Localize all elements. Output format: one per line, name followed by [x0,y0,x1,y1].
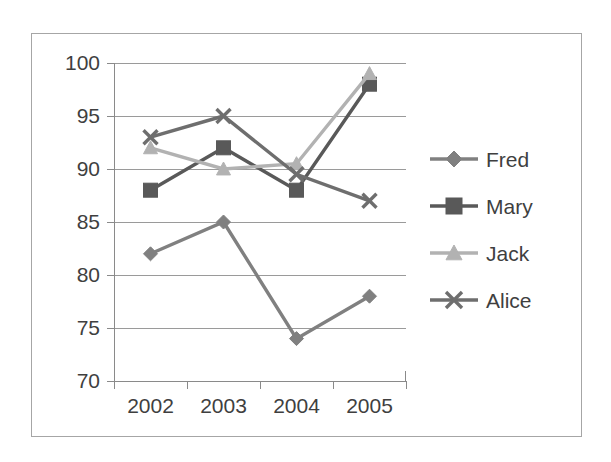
diamond-marker [144,247,158,261]
legend-label: Alice [486,289,532,312]
line-chart: 100959085807570 2002200320042005 FredMar… [32,34,581,436]
legend-item-mary[interactable]: Mary [430,195,533,218]
series-jack [144,67,377,175]
chart-legend: FredMaryJackAlice [430,148,533,312]
y-axis-tick-label: 85 [77,210,100,233]
diamond-marker [363,289,377,303]
legend-label: Fred [486,148,529,171]
y-axis-tick-label: 70 [77,369,100,392]
x-axis-tick-label: 2002 [127,394,174,417]
legend-label: Jack [486,242,530,265]
y-axis-tick-label: 95 [77,104,100,127]
series-mary [144,77,377,197]
x-axis-tick-label: 2003 [200,394,247,417]
legend-item-jack[interactable]: Jack [430,242,530,265]
square-marker [446,198,462,214]
square-marker [217,141,231,155]
triangle-marker [363,67,377,80]
diamond-marker [446,151,462,167]
x-axis-tick-label: 2004 [273,394,320,417]
y-axis-tick-label: 80 [77,263,100,286]
x-axis-tick-labels: 2002200320042005 [127,394,393,417]
chart-frame: 100959085807570 2002200320042005 FredMar… [31,33,582,437]
x-axis-tick-label: 2005 [346,394,393,417]
tick-marks [107,64,407,390]
square-marker [144,183,158,197]
y-axis-tick-labels: 100959085807570 [65,51,100,392]
y-axis-tick-label: 75 [77,316,100,339]
legend-label: Mary [486,195,533,218]
legend-item-alice[interactable]: Alice [430,289,532,312]
series-fred [144,215,377,346]
legend-item-fred[interactable]: Fred [430,148,529,171]
y-axis-tick-label: 90 [77,157,100,180]
gridlines [114,64,406,382]
square-marker [290,183,304,197]
y-axis-tick-label: 100 [65,51,100,74]
series-group [144,67,377,346]
